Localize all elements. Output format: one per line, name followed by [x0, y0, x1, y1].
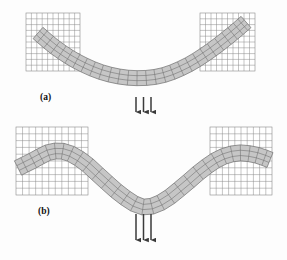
- fem-figure: (a) (b): [0, 0, 287, 260]
- panel-a-label: (a): [40, 92, 51, 103]
- panel-b-label: (b): [38, 206, 50, 217]
- fem-diagram-canvas: (a) (b): [0, 0, 287, 260]
